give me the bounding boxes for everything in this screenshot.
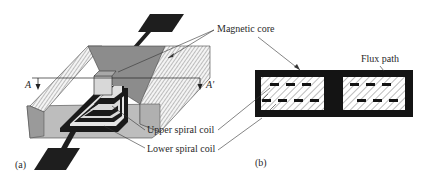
upper-coil-conductors-right bbox=[350, 83, 391, 86]
lower-coil-conductors-right bbox=[357, 99, 398, 102]
panel-label-a: (a) bbox=[15, 160, 26, 170]
top-terminal-pad bbox=[138, 14, 184, 32]
bottom-terminal-pad bbox=[34, 148, 80, 170]
label-section-a: A bbox=[25, 80, 31, 90]
left-winding-window bbox=[261, 77, 324, 110]
center-core-post bbox=[94, 76, 112, 95]
leader-core-b bbox=[258, 37, 300, 70]
label-lower-spiral-coil: Lower spiral coil bbox=[147, 144, 215, 154]
panel-label-b: (b) bbox=[255, 158, 267, 168]
label-upper-spiral-coil: Upper spiral coil bbox=[147, 125, 214, 135]
leader-lower-coil-b bbox=[218, 118, 262, 150]
label-magnetic-core: Magnetic core bbox=[217, 24, 274, 34]
label-section-a-prime: A' bbox=[206, 80, 214, 90]
left-wall-face bbox=[27, 106, 44, 138]
arrow-down-icon bbox=[36, 84, 41, 90]
upper-coil-conductors-left bbox=[270, 83, 311, 86]
right-winding-window bbox=[343, 77, 405, 110]
label-flux-path: Flux path bbox=[361, 54, 399, 64]
